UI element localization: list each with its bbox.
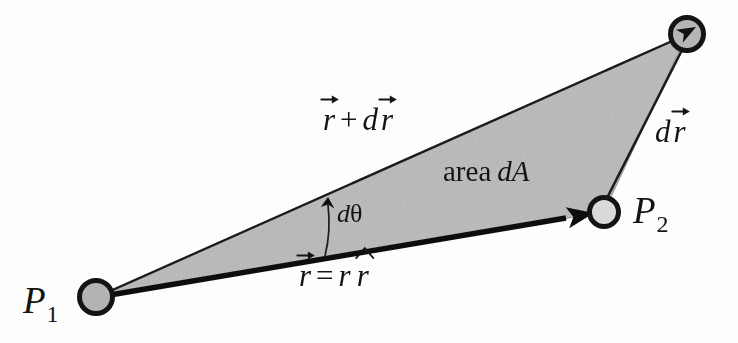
label-r-equals-r-rhat: r=rr [299,260,369,291]
point-p2-base: P [633,190,656,231]
point-p1-base: P [23,280,46,321]
plus-operator: + [340,102,357,137]
diagram-vector-graphics [0,0,738,343]
vector-r-glyph-2: r [381,104,393,135]
equals-operator: = [316,258,333,293]
point-p1-subscript: 1 [47,301,59,327]
label-r-plus-dr: r+dr [323,104,393,135]
label-point-p1: P1 [23,282,58,319]
differential-d-2: d [655,114,671,149]
differential-d-3: d [337,199,350,228]
area-word: area [443,155,491,187]
label-dr: dr [655,116,686,147]
figure-canvas: P1 P2 r+dr dr areadA dθ r=rr [0,0,738,343]
differential-d-1: d [363,102,379,137]
label-d-theta: dθ [337,201,362,227]
unit-vector-r-hat-glyph: r [357,260,369,291]
theta-symbol: θ [350,199,362,228]
area-symbol-dA: dA [497,155,529,187]
vector-r-base-2: r [381,102,393,137]
label-point-p2: P2 [633,192,668,229]
vector-r-base-4: r [299,258,311,293]
p1-node [80,281,113,314]
vector-r-glyph-4: r [299,260,311,291]
vector-r-glyph-1: r [323,104,335,135]
vector-r-glyph-3: r [674,116,686,147]
vector-r-base-1: r [323,102,335,137]
vector-r-base-3: r [674,114,686,149]
label-area-dA: areadA [443,157,530,186]
point-p2-subscript: 2 [657,211,669,237]
p2-node [590,198,619,227]
unit-vector-r-base: r [357,258,369,293]
scalar-r: r [339,258,351,293]
p3-node [671,18,704,51]
